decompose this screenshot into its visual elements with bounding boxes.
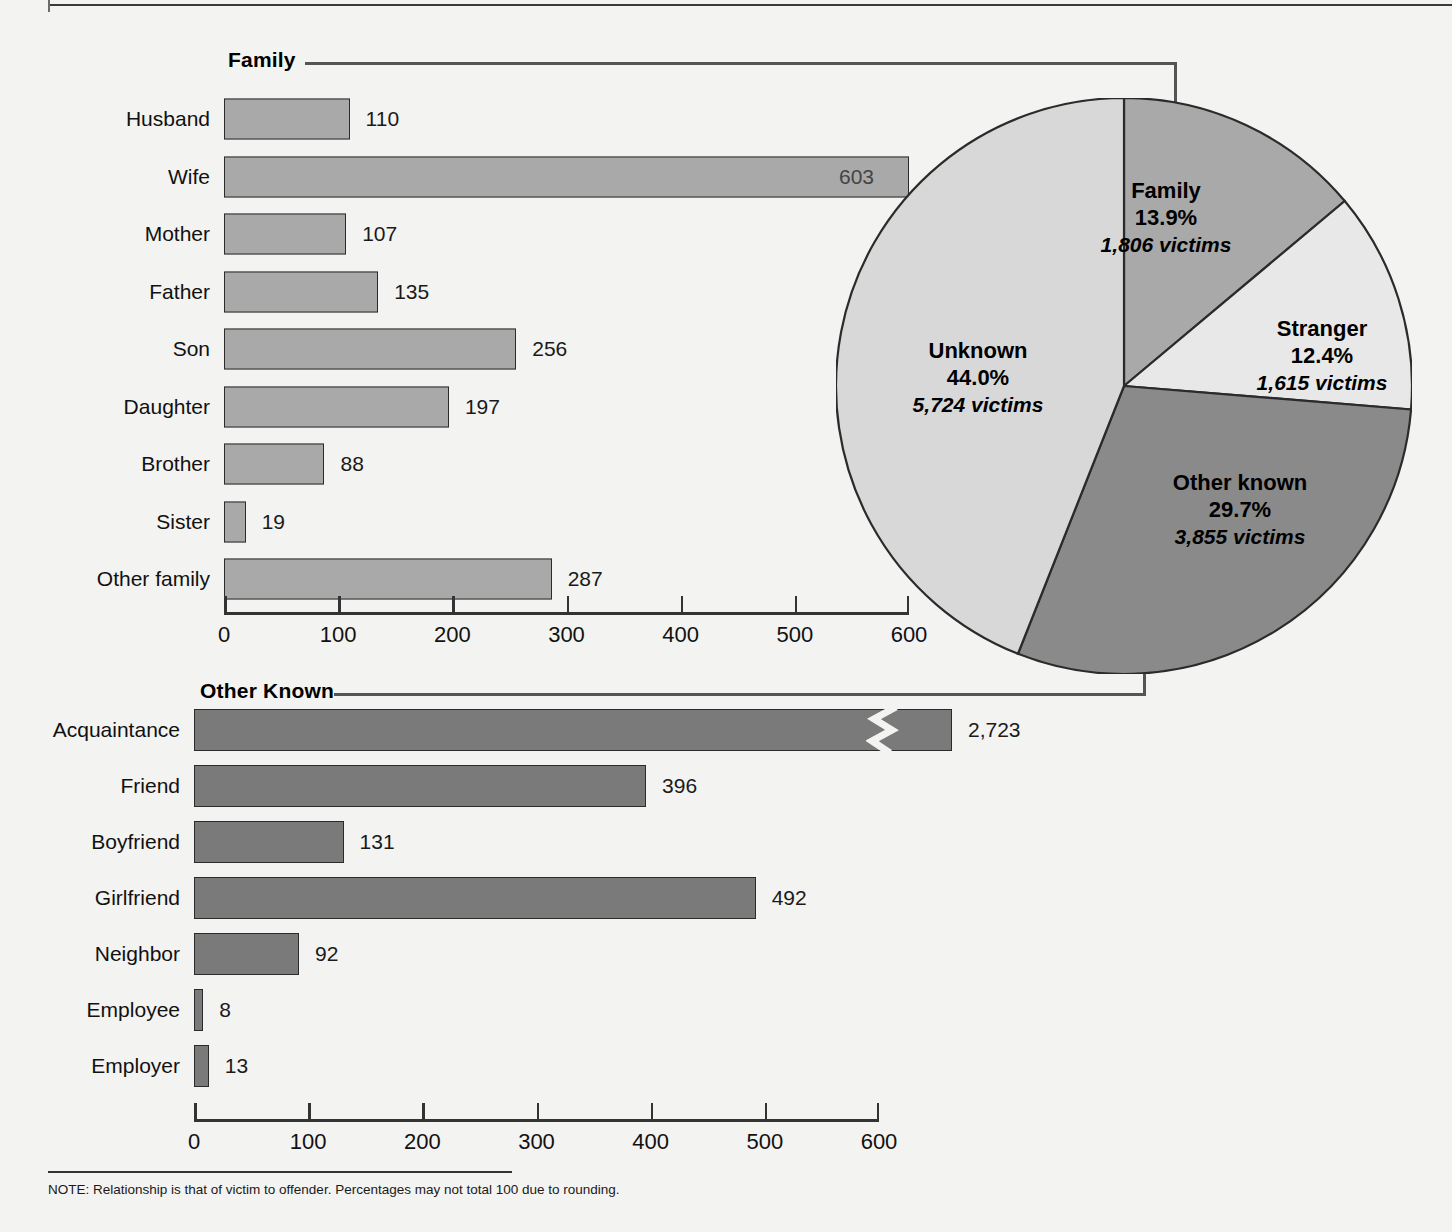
bar [224, 386, 449, 427]
x-axis-tick-label: 400 [632, 1129, 669, 1155]
x-axis-line [194, 1119, 879, 1122]
pie-slice-percent: 44.0% [913, 365, 1044, 392]
axis-break-zigzag [866, 707, 912, 753]
x-axis-tick-label: 200 [434, 622, 471, 648]
x-axis-tick-label: 0 [218, 622, 230, 648]
x-axis-tick-label: 100 [290, 1129, 327, 1155]
x-axis-tick-label: 200 [404, 1129, 441, 1155]
pie-slice-victims: 1,615 victims [1257, 370, 1388, 396]
bar-value-label: 92 [315, 942, 338, 966]
pie-slice-name: Other known [1173, 470, 1307, 497]
x-axis-tick-label: 500 [746, 1129, 783, 1155]
bar-value-label: 135 [394, 280, 429, 304]
bar [224, 329, 516, 370]
pie-slice-victims: 1,806 victims [1101, 232, 1232, 258]
bar [194, 821, 344, 863]
x-axis-tick [651, 1103, 654, 1119]
x-axis-tick [877, 1103, 880, 1119]
x-axis-tick [537, 1103, 540, 1119]
bar-category-label: Mother [0, 222, 210, 246]
x-axis-tick [224, 596, 227, 612]
pie-slice-victims: 3,855 victims [1173, 524, 1307, 550]
bar-category-label: Neighbor [0, 942, 180, 966]
bar-category-label: Employer [0, 1054, 180, 1078]
pie-slice-percent: 12.4% [1257, 343, 1388, 370]
x-axis-tick [422, 1103, 425, 1119]
x-axis-tick-label: 500 [776, 622, 813, 648]
bar-category-label: Employee [0, 998, 180, 1022]
x-axis-tick [308, 1103, 311, 1119]
pie-slice-name: Unknown [913, 338, 1044, 365]
bar [194, 709, 952, 751]
bar-category-label: Husband [0, 107, 210, 131]
bar [224, 444, 324, 485]
x-axis-tick [452, 596, 455, 612]
bar-category-label: Other family [0, 567, 210, 591]
pie-slice-label: Stranger12.4%1,615 victims [1257, 316, 1388, 395]
x-axis-tick [567, 596, 570, 612]
x-axis-tick-label: 0 [188, 1129, 200, 1155]
x-axis-tick-label: 600 [861, 1129, 898, 1155]
bar [224, 501, 246, 542]
bar [194, 765, 646, 807]
bar-category-label: Girlfriend [0, 886, 180, 910]
bar-category-label: Acquaintance [0, 718, 180, 742]
bar-value-label: 2,723 [968, 718, 1021, 742]
bar-value-label: 396 [662, 774, 697, 798]
x-axis-tick-label: 300 [548, 622, 585, 648]
x-axis-tick [765, 1103, 768, 1119]
bar-value-label: 8 [219, 998, 231, 1022]
bar-value-label: 256 [532, 337, 567, 361]
bar-value-label: 492 [772, 886, 807, 910]
bar-category-label: Boyfriend [0, 830, 180, 854]
pie-slice-label: Other known29.7%3,855 victims [1173, 470, 1307, 549]
bar [224, 559, 552, 600]
bar-chart-other-known: Acquaintance2,723Friend396Boyfriend131Gi… [0, 660, 1000, 1160]
bar-value-label: 19 [262, 510, 285, 534]
bar [194, 1045, 209, 1087]
bar-value-label: 197 [465, 395, 500, 419]
bar [224, 99, 350, 140]
bar-category-label: Friend [0, 774, 180, 798]
x-axis-tick [338, 596, 341, 612]
bar-category-label: Sister [0, 510, 210, 534]
bar-category-label: Father [0, 280, 210, 304]
bar [224, 156, 909, 197]
bar [224, 271, 378, 312]
bar [224, 214, 346, 255]
pie-slice-percent: 29.7% [1173, 497, 1307, 524]
figure-root: Family Husband110Wife603Mother107Father1… [0, 0, 1452, 1232]
bar-value-label: 13 [225, 1054, 248, 1078]
pie-slice-percent: 13.9% [1101, 205, 1232, 232]
x-axis-tick [194, 1103, 197, 1119]
bar-category-label: Brother [0, 452, 210, 476]
bar [194, 989, 203, 1031]
bar-category-label: Son [0, 337, 210, 361]
bar [194, 933, 299, 975]
bar-value-label: 287 [568, 567, 603, 591]
bar-category-label: Daughter [0, 395, 210, 419]
note-divider-rule [48, 1171, 512, 1173]
x-axis-tick-label: 300 [518, 1129, 555, 1155]
pie-slice-victims: 5,724 victims [913, 392, 1044, 418]
x-axis-tick [681, 596, 684, 612]
pie-slice-label: Unknown44.0%5,724 victims [913, 338, 1044, 417]
x-axis-line [224, 612, 909, 615]
pie-slice-name: Family [1101, 178, 1232, 205]
x-axis-tick [795, 596, 798, 612]
bar-value-label: 88 [340, 452, 363, 476]
pie-chart-victim-offender-relationship: Family13.9%1,806 victimsStranger12.4%1,6… [836, 98, 1412, 674]
x-axis-tick-label: 100 [320, 622, 357, 648]
bar-value-label: 107 [362, 222, 397, 246]
figure-note: NOTE: Relationship is that of victim to … [48, 1182, 620, 1197]
pie-slice-label: Family13.9%1,806 victims [1101, 178, 1232, 257]
x-axis-tick-label: 400 [662, 622, 699, 648]
bar-category-label: Wife [0, 165, 210, 189]
pie-slice-name: Stranger [1257, 316, 1388, 343]
bar-value-label: 110 [366, 107, 399, 131]
bar-value-label: 131 [360, 830, 395, 854]
bar [194, 877, 756, 919]
